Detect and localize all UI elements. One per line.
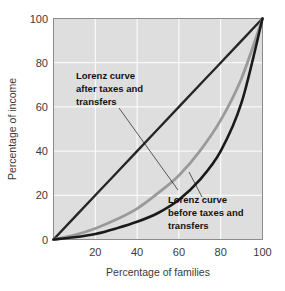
annotation-after-line-2: after taxes and (76, 83, 143, 94)
y-tick-label-40: 40 (36, 145, 48, 157)
annotation-after-line-1: Lorenz curve (76, 70, 135, 81)
y-tick-label-100: 100 (30, 13, 48, 25)
y-tick-label-0: 0 (42, 234, 48, 246)
y-tick-label-80: 80 (36, 57, 48, 69)
annotation-before-line-3: transfers (168, 220, 209, 231)
y-axis-title: Percentage of income (6, 78, 18, 180)
annotation-after-line-3: transfers (76, 96, 117, 107)
y-tick-label-60: 60 (36, 101, 48, 113)
x-tick-label-60: 60 (173, 246, 185, 258)
x-tick-label-80: 80 (215, 246, 227, 258)
x-tick-label-40: 40 (131, 246, 143, 258)
chart-figure: Lorenz curve after taxes and transfers L… (0, 0, 285, 291)
lorenz-curve-chart: Lorenz curve after taxes and transfers L… (0, 0, 285, 291)
annotation-before-line-2: before taxes and (168, 207, 244, 218)
x-tick-label-20: 20 (89, 246, 101, 258)
x-axis-title: Percentage of families (106, 266, 210, 278)
annotation-before-line-1: Lorenz curve (168, 194, 227, 205)
y-tick-label-20: 20 (36, 189, 48, 201)
x-tick-label-100: 100 (253, 246, 271, 258)
